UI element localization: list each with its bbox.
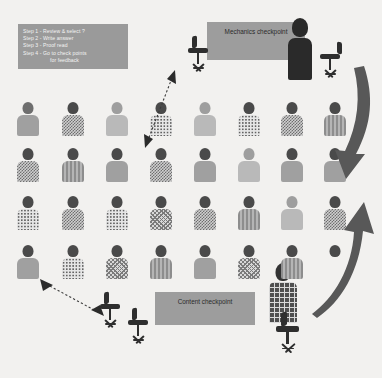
- student-figure-r2-c2: [62, 148, 84, 182]
- student-figure-r1-c1: [17, 102, 39, 136]
- step-line-3: Step 3 - Proof read: [23, 42, 123, 49]
- student-body-icon: [17, 161, 39, 182]
- teacher-figure: [287, 18, 313, 80]
- student-figure-r4-c5: [194, 245, 216, 279]
- chair-legs: [128, 334, 150, 342]
- curved-arrow-down-right: [312, 62, 382, 187]
- chair-content-right: [128, 308, 154, 342]
- curved-arrow-up-right: [296, 196, 374, 318]
- student-body-icon: [238, 161, 260, 182]
- student-head-icon: [200, 245, 211, 257]
- student-body-icon: [238, 115, 260, 136]
- student-body-icon: [238, 209, 260, 230]
- student-body-icon: [17, 115, 39, 136]
- student-figure-r4-c4: [150, 245, 172, 279]
- student-figure-r2-c1: [17, 148, 39, 182]
- student-figure-r2-c3: [106, 148, 128, 182]
- student-head-icon: [112, 102, 123, 114]
- student-figure-r3-c6: [238, 196, 260, 230]
- step-line-5: for feedback: [23, 57, 123, 64]
- student-figure-r2-c7: [281, 148, 303, 182]
- student-head-icon: [68, 245, 79, 257]
- student-body-icon: [150, 258, 172, 279]
- student-head-icon: [244, 102, 255, 114]
- student-head-icon: [112, 196, 123, 208]
- student-head-icon: [112, 245, 123, 257]
- content-checkpoint-banner: Content checkpoint: [155, 292, 255, 325]
- student-head-icon: [23, 148, 34, 160]
- student-body-icon: [194, 258, 216, 279]
- student-head-icon: [68, 196, 79, 208]
- student-figure-r2-c6: [238, 148, 260, 182]
- student-body-icon: [281, 161, 303, 182]
- student-head-icon: [244, 148, 255, 160]
- student-head-icon: [287, 102, 298, 114]
- student-figure-r1-c7: [281, 102, 303, 136]
- student-figure-r1-c2: [62, 102, 84, 136]
- student-body-icon: [238, 258, 260, 279]
- student-head-icon: [23, 245, 34, 257]
- content-checkpoint-label: Content checkpoint: [178, 298, 233, 305]
- student-head-icon: [68, 102, 79, 114]
- diagram-canvas: Step 1 - Review & select ? Step 2 - Writ…: [0, 0, 382, 378]
- student-head-icon: [244, 245, 255, 257]
- student-figure-r3-c5: [194, 196, 216, 230]
- student-head-icon: [112, 148, 123, 160]
- student-body-icon: [281, 115, 303, 136]
- student-body-icon: [106, 161, 128, 182]
- student-body-icon: [150, 209, 172, 230]
- student-figure-r3-c4: [150, 196, 172, 230]
- dotted-arrow-to-content: [28, 272, 128, 332]
- teacher-body-icon: [288, 38, 312, 80]
- mechanics-checkpoint-label: Mechanics checkpoint: [225, 28, 288, 35]
- student-body-icon: [62, 209, 84, 230]
- student-body-icon: [106, 115, 128, 136]
- student-figure-r3-c3: [106, 196, 128, 230]
- student-head-icon: [287, 148, 298, 160]
- chair-back: [337, 41, 342, 54]
- student-body-icon: [106, 209, 128, 230]
- student-body-icon: [194, 209, 216, 230]
- step-line-1: Step 1 - Review & select ?: [23, 28, 123, 35]
- chair-back: [132, 307, 137, 320]
- chair-legs: [276, 342, 301, 351]
- student-head-icon: [244, 196, 255, 208]
- step-line-2: Step 2 - Write answer: [23, 35, 123, 42]
- student-figure-r4-c6: [238, 245, 260, 279]
- chair-back: [192, 35, 197, 48]
- student-head-icon: [156, 196, 167, 208]
- student-body-icon: [17, 209, 39, 230]
- student-body-icon: [62, 161, 84, 182]
- student-figure-r1-c3: [106, 102, 128, 136]
- chair-back: [281, 311, 287, 326]
- student-figure-r1-c6: [238, 102, 260, 136]
- steps-panel: Step 1 - Review & select ? Step 2 - Writ…: [18, 24, 128, 69]
- step-line-4: Step 4 - Go to check points: [23, 50, 123, 57]
- student-head-icon: [23, 196, 34, 208]
- student-body-icon: [62, 115, 84, 136]
- teacher-head-icon: [292, 18, 308, 37]
- student-head-icon: [68, 148, 79, 160]
- dotted-arrow-to-mechanics: [130, 60, 220, 175]
- student-head-icon: [23, 102, 34, 114]
- student-figure-r3-c1: [17, 196, 39, 230]
- student-head-icon: [200, 196, 211, 208]
- student-head-icon: [156, 245, 167, 257]
- student-figure-r3-c2: [62, 196, 84, 230]
